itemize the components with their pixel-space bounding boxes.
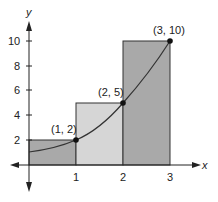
point-label-2-5: (2, 5) — [98, 86, 124, 98]
point-3-10 — [167, 38, 173, 44]
rectangle-2 — [76, 103, 123, 165]
y-tick-label-4: 4 — [14, 109, 20, 121]
x-axis-label: x — [201, 159, 208, 171]
point-1-2 — [73, 137, 79, 143]
point-label-3-10: (3, 10) — [153, 24, 185, 36]
y-axis-up-arrow-icon — [26, 21, 32, 31]
x-tick-label-1: 1 — [73, 171, 79, 183]
x-axis-right-arrow-icon — [192, 162, 201, 168]
y-tick-label-10: 10 — [8, 35, 20, 47]
riemann-sum-diagram: y x 2 4 6 8 10 1 2 3 (1, 2) (2, 5) (3, 1… — [0, 0, 218, 202]
rectangle-1 — [29, 140, 76, 165]
x-axis-left-arrow-icon — [10, 162, 19, 168]
rectangle-3 — [123, 41, 170, 165]
x-tick-label-3: 3 — [167, 171, 173, 183]
y-axis-down-arrow-icon — [26, 182, 32, 192]
point-2-5 — [120, 100, 126, 106]
y-tick-label-6: 6 — [14, 84, 20, 96]
y-tick-label-8: 8 — [14, 60, 20, 72]
y-axis-label: y — [25, 6, 33, 18]
point-label-1-2: (1, 2) — [51, 123, 77, 135]
y-tick-label-2: 2 — [14, 134, 20, 146]
x-tick-label-2: 2 — [120, 171, 126, 183]
